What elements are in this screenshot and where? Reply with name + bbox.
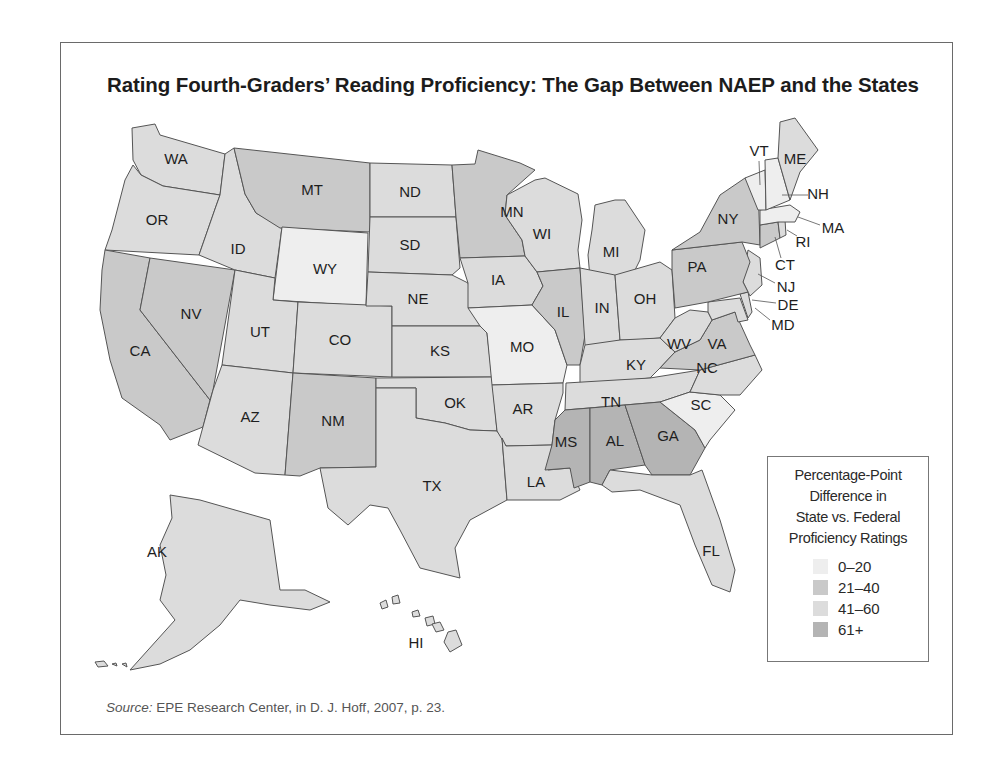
legend-title-line: Difference in	[768, 486, 928, 507]
state-label-nm: NM	[321, 412, 344, 429]
legend-swatch-21-40	[813, 580, 828, 595]
island-shape	[112, 663, 117, 666]
state-label-ak: AK	[147, 543, 167, 560]
island-shape	[122, 663, 127, 667]
leader-line-md	[755, 308, 770, 320]
legend-items: 0–20 21–40 41–60 61+	[768, 556, 928, 640]
state-label-ne: NE	[408, 290, 429, 307]
state-label-ga: GA	[657, 427, 679, 444]
state-label-or: OR	[146, 211, 169, 228]
state-label-mo: MO	[510, 338, 534, 355]
legend-swatch-61-plus	[813, 622, 828, 637]
state-label-nc: NC	[696, 359, 718, 376]
source-label: Source:	[106, 700, 153, 715]
state-label-va: VA	[708, 335, 727, 352]
state-label-mn: MN	[500, 203, 523, 220]
state-label-sc: SC	[691, 396, 712, 413]
legend-item-41-60: 41–60	[813, 598, 928, 619]
state-label-nd: ND	[399, 183, 421, 200]
state-label-ma: MA	[822, 219, 845, 236]
state-label-ks: KS	[430, 342, 450, 359]
state-label-ok: OK	[444, 394, 466, 411]
island-shape	[95, 661, 108, 667]
state-hi	[444, 630, 462, 652]
island-shape	[432, 622, 444, 632]
state-ny	[672, 178, 760, 250]
source-citation: Source: EPE Research Center, in D. J. Ho…	[106, 700, 445, 715]
state-label-la: LA	[527, 473, 545, 490]
state-label-vt: VT	[749, 142, 768, 159]
state-label-az: AZ	[240, 408, 259, 425]
leader-line-de	[752, 300, 776, 303]
state-label-md: MD	[771, 316, 794, 333]
legend-title-line: Percentage-Point	[768, 465, 928, 486]
legend-item-0-20: 0–20	[813, 556, 928, 577]
legend-label: 0–20	[838, 558, 871, 575]
state-label-me: ME	[784, 150, 807, 167]
state-label-nv: NV	[181, 305, 202, 322]
legend-label: 61+	[838, 621, 863, 638]
state-label-sd: SD	[400, 236, 421, 253]
source-text: EPE Research Center, in D. J. Hoff, 2007…	[153, 700, 445, 715]
state-label-tx: TX	[422, 477, 441, 494]
legend-title: Percentage-Point Difference in State vs.…	[768, 465, 928, 549]
state-label-ms: MS	[555, 433, 578, 450]
state-fl	[602, 470, 735, 592]
state-label-al: AL	[606, 432, 624, 449]
state-label-nh: NH	[807, 185, 829, 202]
state-label-ar: AR	[513, 400, 534, 417]
leader-line-ma	[798, 217, 820, 225]
state-label-pa: PA	[688, 258, 707, 275]
state-label-in: IN	[595, 299, 610, 316]
legend-item-21-40: 21–40	[813, 577, 928, 598]
state-label-hi: HI	[409, 634, 424, 651]
state-label-mi: MI	[603, 243, 620, 260]
leader-line-ct	[775, 237, 781, 258]
state-label-de: DE	[778, 296, 799, 313]
state-label-wi: WI	[533, 225, 551, 242]
island-shape	[392, 595, 400, 604]
legend-label: 21–40	[838, 579, 880, 596]
state-ak	[130, 495, 330, 670]
state-label-tn: TN	[601, 393, 621, 410]
state-label-ia: IA	[491, 271, 505, 288]
state-mi	[588, 200, 645, 278]
state-ri	[778, 220, 786, 238]
state-label-wy: WY	[313, 260, 337, 277]
state-label-mt: MT	[301, 181, 323, 198]
legend-swatch-0-20	[813, 559, 828, 574]
state-label-id: ID	[231, 240, 246, 257]
island-shape	[412, 610, 420, 617]
legend-label: 41–60	[838, 600, 880, 617]
state-label-ky: KY	[626, 356, 646, 373]
legend-title-line: Proficiency Ratings	[768, 528, 928, 549]
legend-swatch-41-60	[813, 601, 828, 616]
state-label-co: CO	[329, 331, 352, 348]
legend-box: Percentage-Point Difference in State vs.…	[767, 456, 929, 662]
state-label-ca: CA	[130, 342, 151, 359]
state-label-fl: FL	[702, 542, 720, 559]
state-label-oh: OH	[634, 290, 657, 307]
legend-item-61-plus: 61+	[813, 619, 928, 640]
state-label-ri: RI	[796, 233, 811, 250]
state-label-nj: NJ	[777, 278, 795, 295]
state-label-wv: WV	[667, 335, 691, 352]
legend-title-line: State vs. Federal	[768, 507, 928, 528]
state-label-ut: UT	[250, 323, 270, 340]
state-label-wa: WA	[164, 150, 188, 167]
state-label-ny: NY	[718, 210, 739, 227]
state-label-ct: CT	[775, 256, 795, 273]
island-shape	[380, 600, 388, 609]
state-label-il: IL	[557, 303, 570, 320]
